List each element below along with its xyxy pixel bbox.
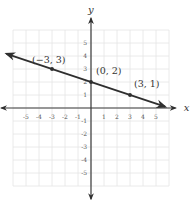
- y-tick-label: 3: [83, 65, 87, 72]
- x-tick-label: -2: [62, 113, 68, 120]
- y-tick-label: -4: [81, 156, 87, 163]
- x-axis-label: x: [184, 102, 190, 113]
- x-tick-label: -5: [23, 113, 29, 120]
- x-tick-label: 4: [141, 113, 145, 120]
- point-label: (3, 1): [134, 78, 160, 89]
- x-tick-label: -4: [36, 113, 42, 120]
- x-tick-label: 1: [102, 113, 106, 120]
- x-tick-label: 3: [128, 113, 132, 120]
- point-marker: [50, 67, 54, 71]
- point-marker: [128, 93, 132, 97]
- y-tick-label: -3: [81, 143, 87, 150]
- y-tick-label: -1: [81, 117, 87, 124]
- y-tick-label: -2: [81, 130, 87, 137]
- point-label: (−3, 3): [32, 54, 66, 65]
- coordinate-plane: xy -5-4-3-2-11234554321-1-2-3-4-5 (−3, 3…: [0, 0, 195, 213]
- y-tick-label: 1: [83, 91, 87, 98]
- y-tick-label: 5: [83, 39, 87, 46]
- x-tick-label: -1: [75, 113, 81, 120]
- plotted-points: (−3, 3)(0, 2)(3, 1): [32, 54, 160, 97]
- y-tick-label: 4: [83, 52, 87, 59]
- y-axis-label: y: [87, 4, 94, 15]
- point-marker: [89, 80, 93, 84]
- y-tick-label: -5: [81, 169, 87, 176]
- point-label: (0, 2): [96, 65, 122, 76]
- x-tick-label: -3: [49, 113, 55, 120]
- axes: xy: [1, 4, 189, 199]
- x-tick-label: 5: [154, 113, 158, 120]
- x-tick-label: 2: [115, 113, 119, 120]
